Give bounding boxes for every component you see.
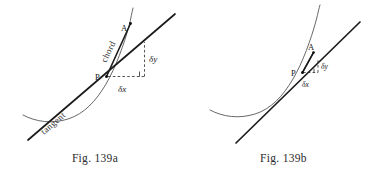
label-tangent: tangent — [39, 110, 68, 137]
label-delta-x: δx — [302, 80, 310, 89]
figure-139a: A P δy δx chord tangent Fig. 139a — [0, 0, 190, 180]
figure-sheet: A P δy δx chord tangent Fig. 139a — [0, 0, 377, 180]
figure-139b: A P δy δx Fig. 139b — [190, 0, 377, 180]
point-p-dot — [301, 71, 304, 74]
figure-139a-caption: Fig. 139a — [0, 152, 190, 164]
label-delta-x: δx — [118, 84, 126, 94]
label-delta-y: δy — [149, 54, 157, 64]
figure-139b-canvas: A P δy δx — [190, 0, 377, 150]
label-point-p: P — [291, 68, 296, 78]
label-point-p: P — [95, 72, 100, 82]
figure-139b-caption: Fig. 139b — [190, 152, 377, 164]
point-a-dot — [129, 22, 132, 25]
label-point-a: A — [121, 23, 128, 33]
curve-path — [210, 5, 320, 117]
label-point-a: A — [308, 42, 315, 52]
tangent-line — [236, 22, 360, 143]
point-p-dot — [105, 75, 108, 78]
figure-139a-canvas: A P δy δx chord tangent — [0, 0, 190, 150]
label-chord: chord — [99, 39, 118, 64]
label-delta-y: δy — [321, 62, 329, 71]
